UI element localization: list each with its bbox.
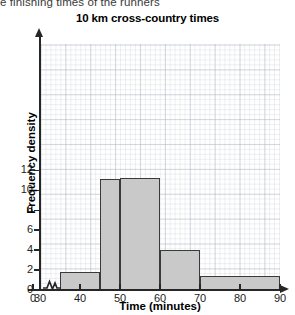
x-axis-tick [39,284,41,290]
x-axis-tick [159,284,161,290]
histogram-bar [160,250,200,290]
x-axis-tick [79,284,81,290]
x-axis-tick [239,284,241,290]
intro-text: e finishing times of the runners [0,0,295,8]
y-axis-tick-label: 2 [9,263,33,275]
x-axis-tick [119,284,121,290]
histogram-bar [120,178,160,290]
y-axis-tick [34,269,40,271]
x-axis-tick [199,284,201,290]
histogram-bar [100,179,120,290]
x-axis-tick [279,284,281,290]
y-axis-line [39,36,41,290]
axis-break-zigzag-icon [43,279,61,291]
chart-title: 10 km cross-country times [0,12,295,24]
y-axis-arrow-icon [35,28,43,37]
x-axis-tick [32,284,34,290]
x-axis-title: Time (minutes) [40,300,280,312]
plot-area [40,44,280,290]
y-axis-title: Frequency density [25,63,37,263]
x-axis-line [28,289,281,291]
